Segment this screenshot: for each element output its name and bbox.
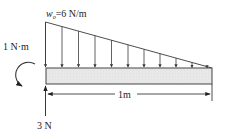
load-envelope [46, 22, 213, 68]
moment-label: 1 N·m [3, 41, 29, 52]
moment-arc-icon [16, 62, 35, 86]
load-value: =6 N/m [56, 8, 87, 19]
beam-diagram: wo=6 N/m 1 N·m 3 N 1m [0, 0, 226, 139]
load-label: wo=6 N/m [46, 8, 87, 20]
reaction-label: 3 N [37, 120, 52, 131]
beam [46, 68, 212, 84]
moment-arrow [16, 62, 35, 86]
distributed-load [46, 22, 213, 68]
dimension-label: 1m [118, 89, 131, 100]
